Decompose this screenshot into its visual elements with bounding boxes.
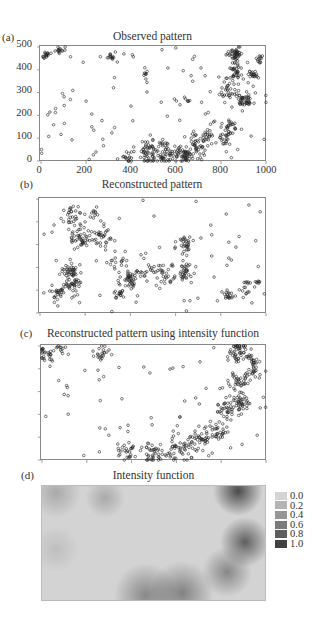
scatter-points: [41, 345, 267, 461]
legend-swatch: [275, 492, 287, 500]
y-tick: 400: [2, 61, 32, 72]
x-tick: 200: [64, 164, 104, 175]
panel-c-label: (c): [20, 327, 32, 339]
legend-swatch: [275, 530, 287, 538]
legend-item: 1.0: [275, 539, 303, 549]
panel-d-label: (d): [21, 469, 34, 481]
y-tick: 100: [2, 130, 32, 141]
legend-label: 1.0: [290, 539, 303, 549]
legend-swatch: [275, 521, 287, 529]
x-tick: 0: [19, 164, 59, 175]
intensity-legend: 0.0 0.2 0.4 0.6 0.8 1.0: [275, 491, 303, 549]
scatter-points: [40, 46, 267, 162]
scatter-plot-reconstructed: [38, 197, 266, 313]
panel-a-title: Observed pattern: [39, 30, 266, 42]
panel-b-title: Reconstructed pattern: [38, 178, 266, 190]
x-tick: 1000: [246, 164, 286, 175]
scatter-plot-observed: [39, 45, 266, 161]
x-tick: 600: [155, 164, 195, 175]
panel-b-label: (b): [20, 178, 33, 190]
legend-swatch: [275, 501, 287, 509]
y-tick: 0: [2, 153, 32, 164]
y-tick: 200: [2, 107, 32, 118]
panel-c-title: Reconstructed pattern using intensity fu…: [40, 327, 266, 339]
intensity-heatmap: [41, 485, 266, 601]
heatmap-surface: [42, 486, 265, 600]
y-tick: 300: [2, 84, 32, 95]
x-tick: 800: [200, 164, 240, 175]
scatter-plot-intensity-reconstruction: [40, 344, 266, 460]
legend-swatch: [275, 540, 287, 548]
panel-d-title: Intensity function: [41, 469, 266, 481]
y-tick: 500: [2, 38, 32, 49]
scatter-points: [39, 198, 267, 314]
legend-swatch: [275, 511, 287, 519]
x-tick: 400: [110, 164, 150, 175]
